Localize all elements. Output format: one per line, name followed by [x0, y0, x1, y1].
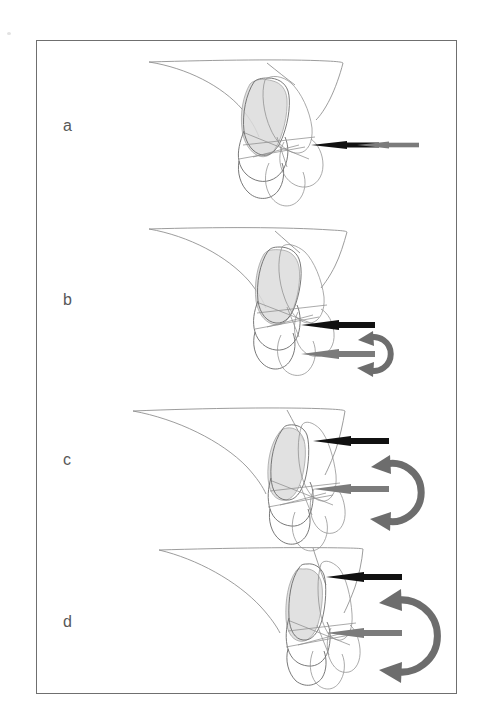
- panel-a-svg: [37, 41, 458, 213]
- bone-outline-b: [149, 228, 347, 308]
- panel-b-artwork: [37, 211, 458, 383]
- panel-a-artwork: [37, 41, 458, 213]
- panel-a: a: [37, 41, 458, 213]
- bone-outline-c: [133, 408, 345, 494]
- bone-outline-d: [159, 548, 363, 633]
- panel-b: b: [37, 211, 458, 383]
- panel-d: d: [37, 531, 458, 695]
- force-arrow-gray-b: [301, 349, 375, 359]
- panel-b-svg: [37, 211, 458, 383]
- tooth-root-shaded-a: [241, 79, 287, 156]
- force-arrow-gray-c: [313, 484, 389, 494]
- force-arrow-black-d: [326, 572, 402, 582]
- figure-frame: a: [36, 40, 457, 694]
- force-arrow-gray-d: [326, 628, 402, 638]
- panel-d-svg: [37, 531, 458, 695]
- panel-d-artwork: [37, 531, 458, 695]
- page-speck: [7, 32, 11, 35]
- moment-arrow-medium-c: [370, 455, 421, 531]
- figure-root: a: [0, 0, 480, 725]
- force-arrow-black-c: [313, 436, 389, 446]
- force-arrow-black-b: [301, 320, 375, 330]
